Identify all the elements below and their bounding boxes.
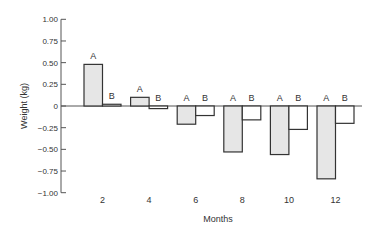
bar-series-label: A	[323, 93, 329, 103]
x-tick-label: 10	[284, 195, 294, 205]
bar-series-label: A	[137, 84, 143, 94]
bar-a-month-4	[131, 97, 150, 106]
bar-series-label: A	[230, 93, 236, 103]
chart-svg: 1.000.750.500.250−0.25−0.50−0.75−1.00 AB…	[0, 0, 377, 234]
bar-series-label: B	[155, 93, 161, 103]
bar-series-label: B	[342, 93, 348, 103]
bar-series-label: B	[249, 93, 255, 103]
y-tick-label: 1.00	[42, 15, 58, 24]
bar-chart: 1.000.750.500.250−0.25−0.50−0.75−1.00 AB…	[0, 0, 377, 234]
bar-b-month-10	[289, 106, 308, 129]
bar-series-label: B	[202, 93, 208, 103]
bar-a-month-12	[317, 106, 336, 179]
bar-series-label: B	[295, 93, 301, 103]
y-tick-label: 0.50	[42, 59, 58, 68]
bar-a-month-2	[84, 64, 103, 106]
y-tick-label: 0.75	[42, 37, 58, 46]
bar-b-month-2	[103, 104, 122, 106]
bar-series-label: A	[277, 93, 283, 103]
x-axis-title: Months	[203, 214, 233, 224]
x-tick-label: 4	[147, 195, 152, 205]
bar-series-label: B	[109, 91, 115, 101]
bar-a-month-10	[270, 106, 289, 155]
bar-series-label: A	[90, 51, 96, 61]
bars: ABABABABABAB	[84, 51, 354, 178]
x-tick-label: 6	[193, 195, 198, 205]
x-tick-label: 8	[240, 195, 245, 205]
y-tick-label: −1.00	[38, 189, 59, 198]
bar-a-month-6	[177, 106, 196, 124]
bar-b-month-6	[196, 106, 215, 116]
bar-b-month-12	[336, 106, 355, 123]
x-tick-label: 12	[330, 195, 340, 205]
bar-b-month-4	[149, 106, 168, 109]
x-axis-labels: 24681012	[100, 195, 341, 205]
bar-a-month-8	[224, 106, 243, 152]
x-tick-label: 2	[100, 195, 105, 205]
y-tick-label: −0.75	[38, 167, 59, 176]
y-axis-title: Weight (kg)	[19, 83, 29, 129]
bar-series-label: A	[183, 93, 189, 103]
y-tick-label: −0.50	[38, 145, 59, 154]
bar-b-month-8	[242, 106, 260, 120]
y-tick-label: −0.25	[38, 124, 59, 133]
y-tick-label: 0	[54, 102, 59, 111]
y-tick-label: 0.25	[42, 80, 58, 89]
